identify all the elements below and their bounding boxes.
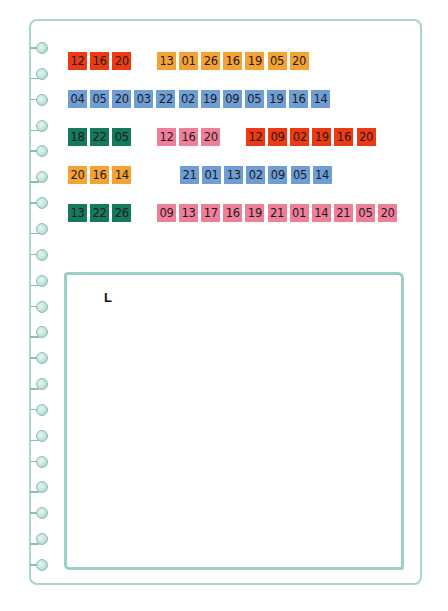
binder-ring-icon bbox=[36, 456, 48, 468]
number-tile: 16 bbox=[289, 90, 308, 108]
number-tile: 19 bbox=[312, 128, 331, 146]
number-tile: 19 bbox=[201, 90, 220, 108]
number-tile: 16 bbox=[90, 52, 109, 70]
binder-ring-icon bbox=[36, 404, 48, 416]
number-tile: 19 bbox=[245, 52, 264, 70]
number-tile: 21 bbox=[180, 166, 199, 184]
number-tile: 18 bbox=[68, 128, 87, 146]
number-tile: 02 bbox=[179, 90, 198, 108]
number-tile: 14 bbox=[313, 166, 332, 184]
binder-ring-icon bbox=[36, 326, 48, 338]
number-tile: 26 bbox=[201, 52, 220, 70]
binder-ring-icon bbox=[36, 301, 48, 313]
binder-ring-icon bbox=[36, 275, 48, 287]
number-tile: 05 bbox=[268, 52, 287, 70]
number-tile: 22 bbox=[156, 90, 175, 108]
number-tile: 03 bbox=[134, 90, 153, 108]
number-tile: 19 bbox=[245, 204, 264, 222]
number-tile: 16 bbox=[179, 128, 198, 146]
binder-ring-icon bbox=[36, 559, 48, 571]
binder-ring-icon bbox=[36, 197, 48, 209]
binder-ring-icon bbox=[36, 171, 48, 183]
number-tile: 20 bbox=[201, 128, 220, 146]
binder-ring-icon bbox=[36, 94, 48, 106]
binder-ring-icon bbox=[36, 352, 48, 364]
number-tile: 13 bbox=[179, 204, 198, 222]
number-tile: 05 bbox=[245, 90, 264, 108]
number-tile: 04 bbox=[68, 90, 87, 108]
binder-ring-icon bbox=[36, 120, 48, 132]
number-tile: 13 bbox=[224, 166, 243, 184]
number-tile: 22 bbox=[90, 128, 109, 146]
number-tile: 05 bbox=[112, 128, 131, 146]
number-tile: 02 bbox=[246, 166, 265, 184]
binder-ring-icon bbox=[36, 68, 48, 80]
number-tile: 21 bbox=[268, 204, 287, 222]
binder-ring-icon bbox=[36, 507, 48, 519]
binder-ring-icon bbox=[36, 481, 48, 493]
number-tile: 09 bbox=[268, 128, 287, 146]
number-tile: 17 bbox=[201, 204, 220, 222]
answer-text: L bbox=[104, 290, 112, 305]
number-tile: 16 bbox=[334, 128, 353, 146]
number-tile: 02 bbox=[290, 128, 309, 146]
number-tile: 16 bbox=[223, 204, 242, 222]
number-tile: 09 bbox=[157, 204, 176, 222]
number-tile: 01 bbox=[179, 52, 198, 70]
number-tile: 19 bbox=[267, 90, 286, 108]
number-tile: 13 bbox=[157, 52, 176, 70]
number-tile: 26 bbox=[112, 204, 131, 222]
binder-ring-icon bbox=[36, 378, 48, 390]
number-tile: 16 bbox=[90, 166, 109, 184]
answer-box[interactable] bbox=[64, 272, 404, 570]
number-tile: 20 bbox=[112, 52, 131, 70]
binder-ring-icon bbox=[36, 223, 48, 235]
number-tile: 13 bbox=[68, 204, 87, 222]
binder-ring-icon bbox=[36, 249, 48, 261]
number-tile: 09 bbox=[268, 166, 287, 184]
binder-ring-icon bbox=[36, 145, 48, 157]
number-tile: 01 bbox=[202, 166, 221, 184]
number-tile: 22 bbox=[90, 204, 109, 222]
number-tile: 12 bbox=[157, 128, 176, 146]
number-tile: 14 bbox=[112, 166, 131, 184]
number-tile: 20 bbox=[290, 52, 309, 70]
number-tile: 05 bbox=[291, 166, 310, 184]
number-tile: 12 bbox=[68, 52, 87, 70]
number-tile: 20 bbox=[357, 128, 376, 146]
number-tile: 20 bbox=[68, 166, 87, 184]
number-tile: 20 bbox=[112, 90, 131, 108]
number-tile: 05 bbox=[356, 204, 375, 222]
number-tile: 21 bbox=[334, 204, 353, 222]
number-tile: 16 bbox=[223, 52, 242, 70]
number-tile: 09 bbox=[223, 90, 242, 108]
binder-ring-icon bbox=[36, 42, 48, 54]
number-tile: 05 bbox=[90, 90, 109, 108]
number-tile: 14 bbox=[312, 204, 331, 222]
number-tile: 14 bbox=[311, 90, 330, 108]
binder-rings bbox=[0, 0, 60, 611]
binder-ring-icon bbox=[36, 430, 48, 442]
number-tile: 20 bbox=[378, 204, 397, 222]
number-tile: 01 bbox=[290, 204, 309, 222]
binder-ring-icon bbox=[36, 533, 48, 545]
number-tile: 12 bbox=[246, 128, 265, 146]
